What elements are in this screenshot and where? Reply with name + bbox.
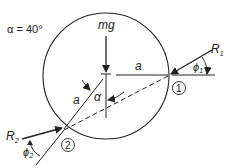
- free-body-diagram: α = 40° mg a a α R1 ϕ1 1 R2 ϕ2 2: [0, 0, 228, 168]
- given-angle: α = 40°: [7, 23, 43, 35]
- slanted-radius: [64, 79, 103, 129]
- contact-1-label: 1: [176, 83, 182, 94]
- phi2-arrowhead-top: [27, 140, 33, 145]
- radius-label-horizontal: a: [135, 59, 142, 73]
- weight-label: mg: [98, 18, 115, 32]
- radius-label-slanted: a: [73, 93, 80, 107]
- force-r2-arrow: [22, 128, 62, 139]
- alpha-arc-arrow-right: [108, 92, 124, 100]
- alpha-label: α: [94, 90, 102, 104]
- phi1-label: ϕ1: [193, 61, 203, 74]
- alpha-arc-arrow-left: [82, 80, 90, 90]
- force-r1-label: R1: [211, 42, 224, 57]
- force-r1-arrow: [171, 50, 212, 74]
- force-r2-label: R2: [6, 129, 19, 144]
- contact-2-label: 2: [65, 140, 71, 151]
- ref-line-2: [36, 130, 64, 165]
